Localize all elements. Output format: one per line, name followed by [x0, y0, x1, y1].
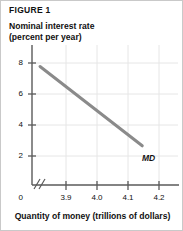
ytick-label-8: 8 — [9, 58, 23, 67]
grid-lines-vertical — [66, 45, 159, 185]
xtick-label-3-9: 3.9 — [55, 193, 77, 202]
xtick-label-4-0: 4.0 — [86, 193, 108, 202]
axis-break-marks — [34, 179, 45, 189]
xtick-label-4-1: 4.1 — [117, 193, 139, 202]
xtick-label-4-2: 4.2 — [148, 193, 170, 202]
x-axis-title: Quantity of money (trillions of dollars) — [1, 211, 183, 221]
money-demand-curve — [40, 66, 142, 145]
ytick-label-2: 2 — [9, 151, 23, 160]
origin-label-0: 0 — [9, 193, 23, 202]
ytick-label-4: 4 — [9, 120, 23, 129]
ytick-label-6: 6 — [9, 89, 23, 98]
figure-panel: FIGURE 1 Nominal interest rate(percent p… — [0, 0, 183, 231]
money-demand-curve-label: MD — [142, 153, 155, 163]
axis-break-slash-2 — [39, 179, 45, 189]
axis-break-slash-1 — [34, 179, 40, 189]
